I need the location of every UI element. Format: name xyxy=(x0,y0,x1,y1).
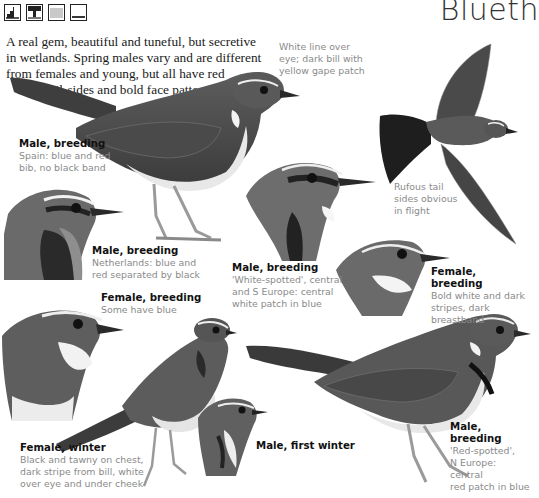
species-title: Blueth xyxy=(440,0,539,27)
intro-line: in wetlands. Spring males vary and are d… xyxy=(6,50,261,65)
wetland-reeds-icon xyxy=(26,4,43,21)
caption-male-first-winter: Male, first winter xyxy=(256,440,355,452)
caption-female-breeding-blue: Female, breeding Some have blue xyxy=(101,292,201,316)
caption-male-breeding-netherlands: Male, breeding Netherlands: blue and red… xyxy=(92,245,200,281)
caption-male-breeding-spain: Male, breeding Spain: blue and red bib, … xyxy=(19,138,111,174)
caption-female-winter: Female, winter Black and tawny on chest,… xyxy=(20,442,144,490)
habitat-icons xyxy=(4,4,87,21)
lake-water-icon xyxy=(48,4,65,21)
open-ground-icon xyxy=(70,4,87,21)
woodland-edge-icon xyxy=(4,4,21,21)
bird-flight-illustration xyxy=(376,44,531,244)
intro-line: A real gem, beautiful and tuneful, but s… xyxy=(6,34,256,49)
caption-male-breeding-white-spotted: Male, breeding 'White-spotted', central … xyxy=(232,262,342,310)
caption-male-breeding-red-spotted: Male, breeding 'Red-spotted', N Europe: … xyxy=(450,421,531,493)
caption-female-breeding-bold: Female, breeding Bold white and dark str… xyxy=(431,266,531,326)
